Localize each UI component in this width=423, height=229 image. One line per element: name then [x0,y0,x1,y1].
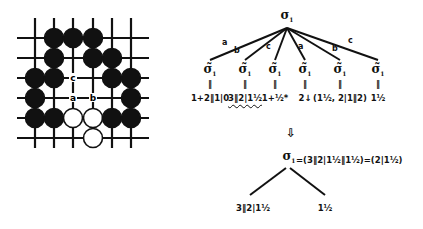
tree-edge [250,168,286,195]
edge-label-b-left: b [234,46,240,55]
child-value-4: 2↓ [298,93,311,103]
child-node-2: σ̃1 [238,62,251,77]
equals-mark: ‖ [338,80,342,89]
result-left-value: 3‖2|1½ [236,203,270,213]
result-root-node: σ1 [282,149,295,164]
equals-mark: ‖ [273,80,277,89]
child-value-3: 1+½* [262,93,288,103]
game-tree-lines [0,0,423,229]
child-value-5: (1½, 2|1‖2) [313,93,367,103]
equals-mark: ‖ [243,80,247,89]
equals-mark: ‖ [303,80,307,89]
child-node-5: σ̃1 [333,62,346,77]
result-equation: =(3‖2|1½‖1½)=(2|1½) [296,155,402,165]
child-node-4: σ̃1 [298,62,311,77]
equals-mark: ‖ [376,80,380,89]
result-right-value: 1½ [318,203,333,213]
child-node-3: σ̃1 [268,62,281,77]
edge-label-b-right: b [332,44,338,53]
child-value-6: 1½ [371,93,386,103]
edge-label-a-right: a [298,42,303,51]
down-arrow-icon: ⇩ [286,126,296,140]
edge-label-c-left: c [266,42,271,51]
child-node-1: σ̃1 [203,62,216,77]
edge-label-a-left: a [222,38,227,47]
child-node-6: σ̃1 [371,62,384,77]
edge-label-c-right: c [348,36,353,45]
equals-mark: ‖ [208,80,212,89]
tree-edge [290,168,325,195]
child-value-2: 3‖2|1½ [228,93,262,103]
child-value-1: 1+2‖1|0 [191,93,229,103]
root-node-sigma: σ1 [280,8,293,23]
